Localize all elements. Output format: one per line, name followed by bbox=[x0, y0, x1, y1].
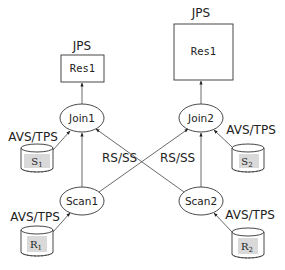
s1-annotation: AVS/TPS bbox=[8, 130, 58, 144]
join2-label: Join2 bbox=[187, 112, 214, 124]
scan1-label: Scan1 bbox=[66, 195, 98, 207]
left-plan: JPS Res1 Join1 S1 AVS/TPS Scan1 RS/SS bbox=[8, 39, 137, 256]
right-plan: JPS Res1 Join2 S2 AVS/TPS Scan2 RS/SS bbox=[160, 6, 276, 258]
left-edge-label: RS/SS bbox=[102, 151, 137, 165]
r1-annotation: AVS/TPS bbox=[10, 210, 60, 224]
query-plan-diagram: JPS Res1 Join1 S1 AVS/TPS Scan1 RS/SS bbox=[0, 0, 285, 270]
join1-label: Join1 bbox=[68, 112, 95, 124]
right-jps-annotation: JPS bbox=[191, 6, 210, 20]
left-result-label: Res1 bbox=[70, 62, 95, 74]
left-jps-annotation: JPS bbox=[72, 39, 91, 53]
s2-annotation: AVS/TPS bbox=[226, 123, 276, 137]
right-result-label: Res1 bbox=[191, 45, 216, 57]
scan2-label: Scan2 bbox=[185, 195, 217, 207]
right-edge-label: RS/SS bbox=[160, 151, 195, 165]
r2-annotation: AVS/TPS bbox=[225, 208, 275, 222]
